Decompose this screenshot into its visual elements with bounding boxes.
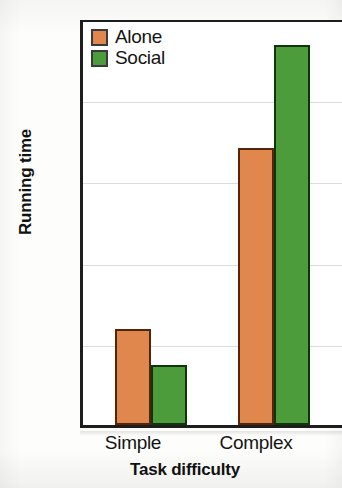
x-tick-label-complex: Complex [196, 432, 316, 454]
bar-group-simple [115, 329, 187, 425]
bar-group-complex [238, 45, 310, 425]
bar-simple-alone [115, 329, 151, 425]
x-axis-title: Task difficulty [60, 460, 310, 480]
x-tick-label-simple: Simple [73, 432, 193, 454]
bars-layer [83, 22, 342, 425]
bar-complex-alone [238, 148, 274, 425]
plot-area: Alone Social [80, 20, 342, 428]
bar-simple-social [151, 365, 187, 425]
y-axis-title: Running time [16, 102, 36, 262]
bar-complex-social [274, 45, 310, 425]
bar-chart-figure: 250 200 150 100 50 0 Running time Alone … [0, 0, 342, 488]
